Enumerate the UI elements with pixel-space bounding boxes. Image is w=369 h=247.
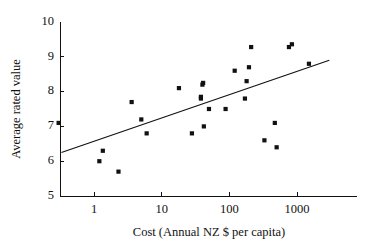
regression-trend-line <box>61 60 329 152</box>
data-point-marker <box>199 95 203 99</box>
scatter-plot-figure: 5678910 1101001000 Cost (Annual NZ $ per… <box>0 0 369 247</box>
y-tick-label: 6 <box>48 153 54 167</box>
x-tick-label: 1 <box>91 202 97 216</box>
data-point-marker <box>116 170 120 174</box>
data-point-marker <box>233 69 237 73</box>
data-point-marker <box>307 62 311 66</box>
data-point-marker <box>177 86 181 90</box>
trend-line-group <box>61 60 329 152</box>
y-tick-label: 9 <box>48 49 54 63</box>
data-point-marker <box>223 107 227 111</box>
plot-canvas: 5678910 1101001000 Cost (Annual NZ $ per… <box>0 0 369 247</box>
y-tick-label: 7 <box>48 118 54 132</box>
data-point-marker <box>145 131 149 135</box>
data-point-marker <box>97 159 101 163</box>
data-point-marker <box>262 138 266 142</box>
x-tick-label: 1000 <box>285 202 310 216</box>
data-point-marker <box>57 121 61 125</box>
data-point-marker <box>139 117 143 121</box>
data-point-marker <box>201 81 205 85</box>
data-point-marker <box>247 65 251 69</box>
data-point-marker <box>207 107 211 111</box>
data-point-marker <box>273 121 277 125</box>
x-axis-title: Cost (Annual NZ $ per capita) <box>133 225 285 239</box>
data-point-marker <box>275 145 279 149</box>
y-axis-title: Average rated value <box>9 59 23 159</box>
data-point-marker <box>190 131 194 135</box>
data-point-marker <box>290 42 294 46</box>
y-tick-label: 5 <box>48 188 54 202</box>
x-tick-group: 1101001000 <box>91 192 310 216</box>
data-points-group <box>57 42 312 174</box>
data-point-marker <box>101 149 105 153</box>
data-point-marker <box>202 124 206 128</box>
data-point-marker <box>243 96 247 100</box>
x-tick-label: 100 <box>220 202 239 216</box>
y-tick-label: 8 <box>48 83 54 97</box>
data-point-marker <box>249 45 253 49</box>
data-point-marker <box>130 100 134 104</box>
data-point-marker <box>245 79 249 83</box>
x-tick-label: 10 <box>155 202 168 216</box>
y-tick-label: 10 <box>42 14 55 28</box>
